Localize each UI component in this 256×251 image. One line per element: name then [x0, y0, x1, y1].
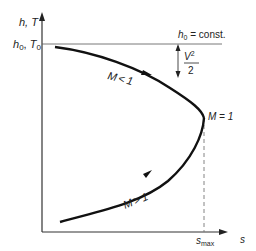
- y-axis-label: h, T: [19, 16, 39, 28]
- x-axis-label: s: [240, 234, 245, 245]
- svg-text:V2: V2: [184, 50, 195, 62]
- kinetic-energy-label: V2 2: [184, 50, 199, 76]
- constant-line-label: h0 = const.: [178, 29, 226, 41]
- supersonic-branch-label: M>1: [121, 190, 149, 211]
- arrow-up-icon: [176, 44, 181, 51]
- supersonic-direction-arrow-icon: [143, 170, 152, 178]
- sonic-point-label: M = 1: [208, 111, 233, 122]
- svg-text:2: 2: [188, 65, 194, 76]
- arrow-down-icon: [176, 71, 181, 78]
- s-max-label: smax: [196, 235, 215, 247]
- subsonic-branch-label: M<1: [107, 69, 135, 87]
- fanno-line-diagram: h, T h0, T0 h0 = const. V2 2 M<1 M = 1 M…: [0, 0, 256, 251]
- stagnation-label: h0, T0: [13, 38, 41, 52]
- x-axis-arrow-icon: [219, 229, 228, 235]
- subsonic-direction-arrow-icon: [141, 70, 152, 75]
- y-axis-arrow-icon: [39, 12, 45, 21]
